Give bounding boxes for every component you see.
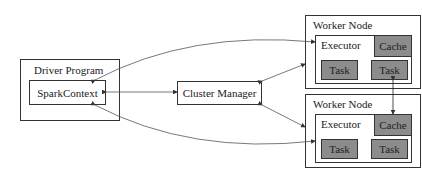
connector-arrows bbox=[0, 0, 422, 170]
spark-architecture-diagram: Driver Program SparkContext Cluster Mana… bbox=[0, 0, 422, 170]
